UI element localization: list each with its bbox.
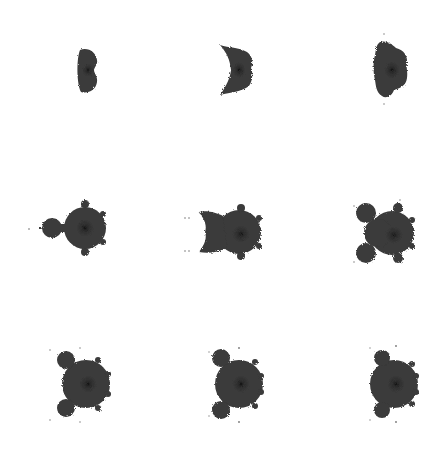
fractal-classic-mandelbrot [18,158,158,308]
fractal-r2c2 [167,158,307,308]
fractal-two-lobe [167,158,307,308]
fractal-r1c1 [18,0,158,150]
fractal-two-bulb [320,158,441,308]
fractal-crescent [167,0,307,150]
fractal-round-two-bulbs [18,310,158,459]
fractal-r1c3 [320,0,441,150]
fractal-round-two-bulbs [320,310,441,459]
fractal-r1c2 [167,0,307,150]
fractal-r3c2 [167,310,307,459]
fractal-r2c1 [18,158,158,308]
fractal-narrow-lens [18,0,158,150]
fractal-r3c1 [18,310,158,459]
fractal-round-two-bulbs [167,310,307,459]
fractal-r2c3 [320,158,441,308]
fractal-r3c3 [320,310,441,459]
fractal-tall-blob [320,0,441,150]
